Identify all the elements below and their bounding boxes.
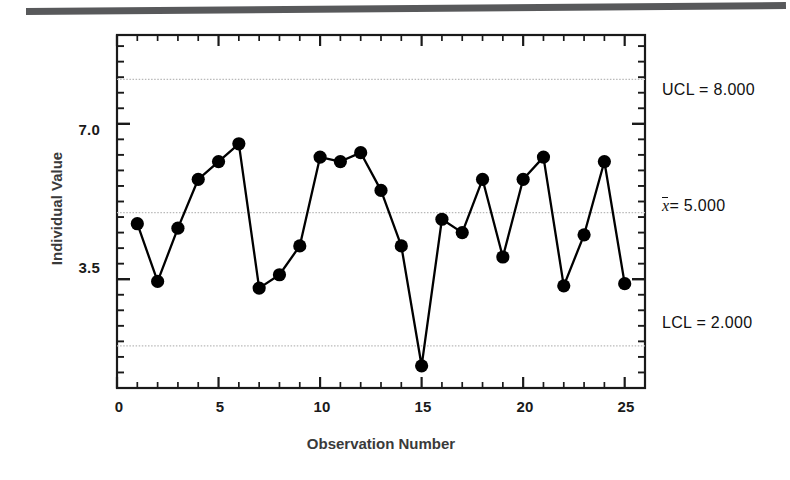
series-line <box>137 144 624 366</box>
x-tick-label-20: 20 <box>505 398 545 415</box>
data-point <box>456 226 469 239</box>
data-point <box>537 151 550 164</box>
data-point <box>151 275 164 288</box>
control-limit-lines <box>117 79 645 345</box>
data-point <box>354 146 367 159</box>
data-point <box>212 155 225 168</box>
data-point <box>557 279 570 292</box>
x-tick-label-5: 5 <box>200 398 240 415</box>
data-point <box>232 137 245 150</box>
x-tick-label-0: 0 <box>99 398 139 415</box>
y-axis-title: Individual Value <box>48 129 65 289</box>
data-point <box>395 239 408 252</box>
data-point <box>435 213 448 226</box>
data-point <box>618 277 631 290</box>
data-point <box>598 155 611 168</box>
data-point <box>131 217 144 230</box>
y-axis-ticks <box>117 46 645 372</box>
data-point <box>496 250 509 263</box>
data-point <box>415 359 428 372</box>
x-axis-title: Observation Number <box>117 435 645 452</box>
center-line-value: = 5.000 <box>669 197 725 214</box>
x-tick-label-10: 10 <box>302 398 342 415</box>
x-axis-ticks <box>117 35 645 388</box>
center-line-annotation: x= 5.000 <box>662 197 725 215</box>
plot-frame <box>117 35 645 388</box>
data-point <box>476 173 489 186</box>
lcl-annotation: LCL = 2.000 <box>662 314 752 332</box>
x-bar-symbol: x <box>662 196 669 214</box>
ucl-annotation: UCL = 8.000 <box>662 81 755 99</box>
data-point <box>192 173 205 186</box>
data-point <box>253 281 266 294</box>
data-point <box>374 184 387 197</box>
data-point <box>313 151 326 164</box>
x-tick-label-25: 25 <box>606 398 646 415</box>
data-point <box>273 268 286 281</box>
x-tick-label-15: 15 <box>403 398 443 415</box>
data-point <box>577 228 590 241</box>
data-point <box>293 239 306 252</box>
data-point <box>334 155 347 168</box>
control-chart-figure: 7.0 3.5 Individual Value 0 5 10 15 20 25… <box>0 0 790 480</box>
data-point <box>171 222 184 235</box>
data-point <box>517 173 530 186</box>
